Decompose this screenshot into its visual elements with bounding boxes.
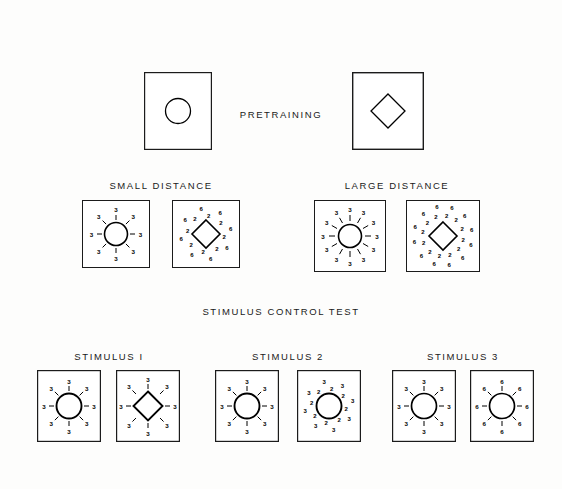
marker-value: 3 [50,385,54,392]
marker-value: 6 [500,428,504,435]
marker-value: 3 [67,428,71,435]
marker-value: 3 [325,246,329,253]
marker-value: 3 [263,385,267,392]
panel-small-distance-circle: 33333333 [68,186,164,282]
panel-stimulus-1-diamond: 33333333 [102,356,194,456]
marker-value: 3 [90,231,94,238]
marker-value: 3 [146,430,150,437]
marker-value: 3 [447,403,451,410]
panel-small-distance-diamond: 6262626262626262 [158,186,254,282]
marker-value: 3 [440,420,444,427]
marker-value: 3 [173,403,177,410]
panel-frame [145,73,212,150]
marker-value: 3 [146,376,150,383]
marker-value: 3 [50,420,54,427]
panel-pretraining-diamond [338,58,438,164]
marker-value: 3 [245,428,249,435]
label-stimulus-control-test: STIMULUS CONTROL TEST [0,306,562,317]
marker-value: 3 [228,420,232,427]
marker-value: 3 [127,422,131,429]
marker-value: 3 [132,213,136,220]
panel-stimulus-3-circle-b: 66666666 [456,356,548,456]
label-pretraining: PRETRAINING [0,109,562,120]
marker-value: 3 [335,256,339,263]
panel-large-distance-circle: 333333333333 [300,186,400,286]
panel-frame [173,201,240,268]
marker-value: 3 [67,378,71,385]
marker-value: 6 [483,385,487,392]
marker-value: 6 [525,403,529,410]
marker-value: 3 [375,233,379,240]
marker-value: 3 [220,403,224,410]
marker-value: 3 [165,383,169,390]
marker-value: 3 [97,248,101,255]
marker-value: 3 [422,378,426,385]
marker-value: 3 [97,213,101,220]
marker-value: 3 [440,385,444,392]
marker-value: 3 [245,378,249,385]
marker-value: 3 [362,256,366,263]
marker-value: 3 [263,420,267,427]
marker-value: 3 [362,209,366,216]
marker-value: 3 [348,206,352,213]
marker-value: 3 [397,403,401,410]
marker-value: 3 [348,260,352,267]
marker-value: 3 [114,206,118,213]
marker-value: 3 [321,233,325,240]
marker-value: 6 [500,378,504,385]
marker-value: 3 [372,219,376,226]
marker-value: 3 [85,420,89,427]
marker-value: 3 [372,246,376,253]
marker-value: 3 [139,231,143,238]
marker-value: 3 [132,248,136,255]
marker-value: 3 [42,403,46,410]
marker-value: 3 [422,428,426,435]
panel-frame [353,73,424,150]
panel-large-distance-diamond: 626262626262626262626262 [392,186,494,286]
marker-value: 3 [85,385,89,392]
marker-value: 3 [270,403,274,410]
marker-value: 3 [114,255,118,262]
panel-stimulus-2-circle-b: 3232323232323232 [283,356,375,456]
panel-pretraining-circle [130,58,226,164]
marker-value: 3 [228,385,232,392]
marker-value: 3 [119,403,123,410]
marker-value: 6 [483,420,487,427]
marker-value: 3 [165,422,169,429]
marker-value: 3 [405,385,409,392]
panel-frame [407,201,480,272]
marker-value: 3 [92,403,96,410]
marker-value: 3 [325,219,329,226]
marker-value: 3 [335,209,339,216]
figure-canvas: PRETRAINING SMALL DISTANCE LARGE DISTANC… [0,0,562,489]
marker-value: 6 [518,385,522,392]
marker-value: 6 [475,403,479,410]
panel-stimulus-2-circle-a: 33333333 [201,356,293,456]
marker-value: 3 [127,383,131,390]
marker-value: 6 [518,420,522,427]
marker-value: 3 [405,420,409,427]
panel-frame [298,371,361,442]
